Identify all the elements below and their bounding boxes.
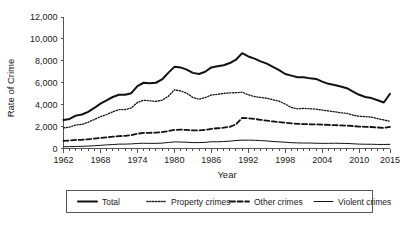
y-tick-label: 8,000 xyxy=(35,56,58,66)
x-tick-label: 1998 xyxy=(275,155,295,165)
x-tick-label: 1986 xyxy=(201,155,221,165)
x-tick-label: 1980 xyxy=(164,155,184,165)
crime-rate-line-chart: Rate of Crime 02,0004,0006,0008,00010,00… xyxy=(0,0,400,226)
legend-label: Property crimes xyxy=(171,197,231,207)
chart-svg: Rate of Crime 02,0004,0006,0008,00010,00… xyxy=(0,0,400,226)
x-tick-label: 1992 xyxy=(238,155,258,165)
y-axis-title: Rate of Crime xyxy=(5,59,16,118)
x-tick-label: 2010 xyxy=(349,155,369,165)
x-tick-label: 2015 xyxy=(380,155,400,165)
y-tick-label: 12,000 xyxy=(30,12,58,22)
y-tick-label: 10,000 xyxy=(30,34,58,44)
legend-label: Violent crimes xyxy=(338,197,391,207)
y-tick-label: 0 xyxy=(52,144,57,154)
legend-label: Other crimes xyxy=(254,197,303,207)
x-axis-title: Year xyxy=(217,169,236,180)
x-tick-label: 1962 xyxy=(53,155,73,165)
y-tick-label: 2,000 xyxy=(35,122,58,132)
x-tick-label: 2004 xyxy=(312,155,332,165)
x-tick-label: 1968 xyxy=(90,155,110,165)
legend-label: Total xyxy=(102,197,120,207)
y-tick-label: 4,000 xyxy=(35,100,58,110)
y-axis-title-group: Rate of Crime xyxy=(5,59,16,118)
y-tick-label: 6,000 xyxy=(35,78,58,88)
x-tick-label: 1974 xyxy=(127,155,147,165)
